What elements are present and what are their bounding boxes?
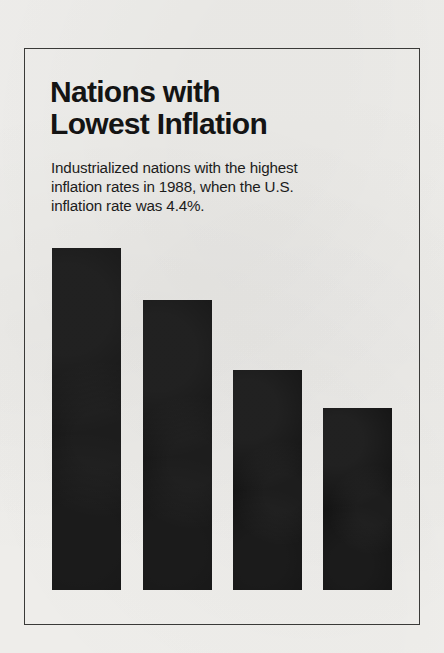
bar-3[interactable]: 1.2%The Netherlands [233, 370, 302, 590]
bar-1[interactable]: 1.9%Australia, Luxembourg, Belgium and S… [52, 248, 121, 590]
bar-4[interactable]: 1.0%Japan [323, 408, 392, 590]
chart-subtitle: Industrialized nations with the highest … [51, 158, 381, 215]
bar-2[interactable]: 1.6%West Germany [143, 300, 212, 590]
page-title: Nations with Lowest Inflation [50, 76, 390, 140]
chart-canvas: Nations with Lowest Inflation Industrial… [0, 0, 444, 653]
